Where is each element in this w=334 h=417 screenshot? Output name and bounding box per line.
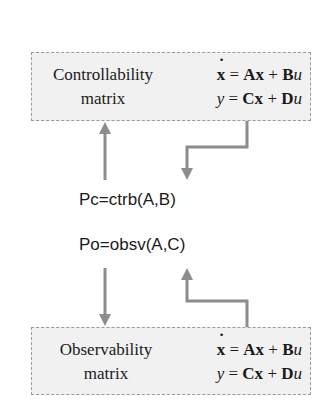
obsv-command: Po=obsv(A,C)	[79, 235, 185, 255]
observability-label: Observability	[46, 340, 166, 360]
ctrb-command: Pc=ctrb(A,B)	[79, 190, 176, 210]
matrix-label: matrix	[44, 89, 162, 109]
state-equation: x = Ax + Bu	[217, 340, 302, 360]
arrow-controllability-to-ctrb	[187, 121, 247, 174]
matrix-label: matrix	[46, 364, 166, 384]
state-equation: x = Ax + Bu	[217, 65, 302, 85]
output-equation: y = Cx + Du	[217, 89, 302, 109]
observability-box: Observability x = Ax + Bu matrix y = Cx …	[31, 327, 311, 395]
controllability-label: Controllability	[44, 65, 162, 85]
output-equation: y = Cx + Du	[217, 364, 302, 384]
controllability-box: Controllability x = Ax + Bu matrix y = C…	[31, 52, 311, 121]
arrow-observability-to-obsv	[187, 274, 247, 327]
